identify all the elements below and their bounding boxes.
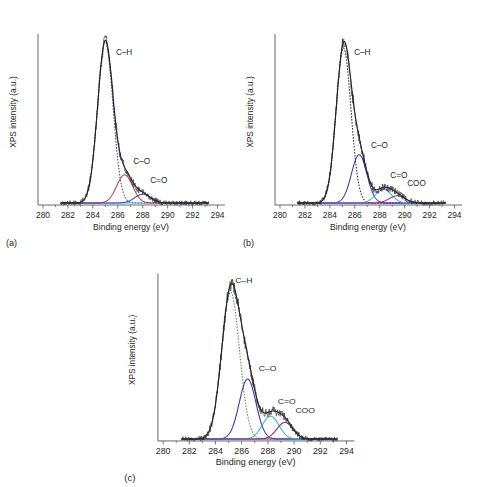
x-tick-label: 282 (182, 446, 197, 456)
x-tick-label: 290 (161, 210, 175, 220)
x-tick-label: 284 (323, 210, 337, 220)
panel-b: 280282284286288290292294 C–HC–OC=OCOO XP… (237, 4, 475, 252)
panel-c-labels: C–HC–OC=OCOO (235, 275, 315, 415)
peak-label-CO: C=O (278, 396, 296, 406)
peak-label-CO: C=O (390, 171, 407, 180)
x-tick-label: 280 (156, 446, 171, 456)
x-tick-label: 292 (423, 210, 437, 220)
peak-label-CO: C–O (133, 157, 150, 166)
panel-c-plot: 280282284286288290292294 C–HC–OC=OCOO XP… (118, 244, 368, 487)
x-tick-label: 284 (208, 446, 223, 456)
x-tick-label: 282 (298, 210, 312, 220)
measured-data-trace (60, 36, 208, 206)
x-tick-label: 290 (398, 210, 412, 220)
x-tick-label: 294 (339, 446, 354, 456)
panel-b-x-axis-title: Binding energy (eV) (330, 222, 406, 232)
x-tick-label: 288 (261, 446, 276, 456)
panel-c-y-axis-title: XPS intensity (a.u.) (127, 315, 137, 385)
peak-label-CO: C–O (259, 364, 277, 374)
panel-a-curves (60, 36, 208, 206)
peak-label-CH: C–H (116, 48, 132, 57)
x-tick-label: 294 (211, 210, 225, 220)
panel-c: 280282284286288290292294 C–HC–OC=OCOO XP… (118, 244, 368, 487)
panel-a-tag: (a) (6, 238, 17, 248)
x-tick-label: 288 (373, 210, 387, 220)
component-curve-CH (60, 42, 208, 203)
panel-c-curves (181, 279, 337, 441)
x-tick-label: 286 (348, 210, 362, 220)
panel-a-axes: 280282284286288290292294 (36, 34, 225, 220)
x-tick-label: 292 (186, 210, 200, 220)
x-tick-label: 280 (273, 210, 287, 220)
panel-c-x-axis-title: Binding energy (eV) (216, 458, 296, 468)
peak-label-COO: COO (407, 179, 426, 188)
x-tick-label: 282 (61, 210, 75, 220)
panel-a-y-axis-title: XPS intensity (a.u.) (8, 76, 18, 148)
panel-a: 280282284286288290292294 C–HC–OC=O XPS i… (0, 4, 238, 252)
x-tick-label: 286 (234, 446, 249, 456)
panel-b-plot: 280282284286288290292294 C–HC–OC=OCOO XP… (237, 4, 475, 252)
x-tick-label: 284 (86, 210, 100, 220)
x-tick-label: 288 (136, 210, 150, 220)
peak-label-CH: C–H (235, 275, 252, 285)
x-tick-label: 294 (448, 210, 462, 220)
panel-b-y-axis-title: XPS intensity (a.u.) (245, 76, 255, 148)
panel-b-axes: 280282284286288290292294 (273, 34, 462, 220)
panel-a-plot: 280282284286288290292294 C–HC–OC=O XPS i… (0, 4, 238, 252)
x-tick-label: 292 (313, 446, 328, 456)
x-tick-label: 280 (36, 210, 50, 220)
x-tick-label: 290 (287, 446, 302, 456)
peak-label-CO: C–O (371, 141, 388, 150)
peak-label-COO: COO (295, 406, 315, 416)
panel-c-tag: (c) (124, 473, 135, 483)
panel-a-x-axis-title: Binding energy (eV) (93, 222, 169, 232)
axis-lines (158, 273, 354, 441)
peak-label-CH: C–H (354, 48, 370, 57)
panel-c-axes: 280282284286288290292294 (156, 273, 355, 455)
component-curve-CO (181, 416, 337, 439)
xps-figure: 280282284286288290292294 C–HC–OC=O XPS i… (0, 0, 479, 487)
peak-label-CO: C=O (150, 176, 167, 185)
x-tick-label: 286 (111, 210, 125, 220)
fit-envelope-curve (60, 40, 208, 203)
